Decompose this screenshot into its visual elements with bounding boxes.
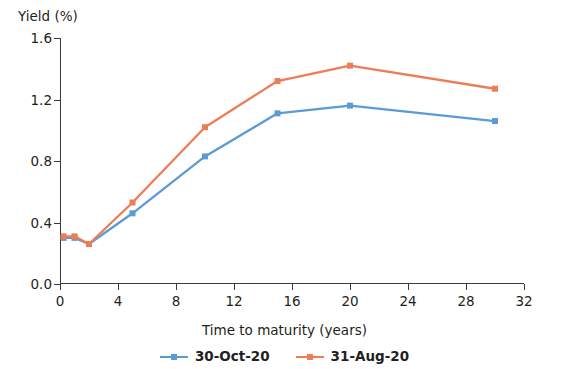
x-tick-mark: [466, 284, 467, 290]
x-tick-label: 28: [457, 293, 474, 309]
x-tick-label: 0: [56, 293, 65, 309]
y-tick-label: 0.4: [31, 215, 52, 231]
x-tick-label: 24: [399, 293, 416, 309]
x-tick-mark: [408, 284, 409, 290]
data-point-marker: [492, 118, 498, 124]
x-tick-mark: [118, 284, 119, 290]
x-tick-mark: [524, 284, 525, 290]
legend-swatch: [296, 351, 324, 362]
data-point-marker: [347, 103, 353, 109]
y-tick-label: 0.0: [31, 276, 52, 292]
series-line: [64, 106, 495, 244]
legend-swatch: [160, 351, 188, 362]
chart-legend: 30-Oct-2031-Aug-20: [0, 348, 569, 364]
x-tick-mark: [60, 284, 61, 290]
x-tick-label: 16: [283, 293, 300, 309]
y-tick-label: 0.8: [31, 153, 52, 169]
data-point-marker: [492, 86, 498, 92]
x-tick-label: 20: [341, 293, 358, 309]
x-tick-label: 32: [515, 293, 532, 309]
legend-marker: [171, 354, 177, 360]
data-point-marker: [130, 210, 136, 216]
x-tick-mark: [176, 284, 177, 290]
data-point-marker: [72, 233, 78, 239]
x-tick-mark: [292, 284, 293, 290]
legend-item-1[interactable]: 30-Oct-20: [160, 348, 270, 364]
y-tick-label: 1.2: [31, 92, 52, 108]
legend-label: 31-Aug-20: [331, 348, 410, 364]
series-2: [61, 63, 498, 247]
series-1: [61, 103, 498, 247]
series-layer: [60, 38, 524, 284]
legend-label: 30-Oct-20: [195, 348, 270, 364]
chart-container: Yield (%) 0.00.40.81.21.6 04812162024283…: [0, 0, 569, 369]
y-axis-title: Yield (%): [18, 8, 78, 24]
x-tick-label: 4: [114, 293, 123, 309]
data-point-marker: [202, 153, 208, 159]
legend-marker: [307, 354, 313, 360]
x-tick-mark: [350, 284, 351, 290]
x-tick-mark: [234, 284, 235, 290]
data-point-marker: [86, 241, 92, 247]
data-point-marker: [347, 63, 353, 69]
data-point-marker: [61, 233, 67, 239]
legend-item-2[interactable]: 31-Aug-20: [296, 348, 410, 364]
x-axis-title: Time to maturity (years): [0, 322, 569, 338]
plot-area: 0.00.40.81.21.6 048121620242832: [60, 38, 524, 284]
data-point-marker: [275, 110, 281, 116]
x-tick-label: 12: [225, 293, 242, 309]
data-point-marker: [202, 124, 208, 130]
data-point-marker: [275, 78, 281, 84]
x-tick-label: 8: [172, 293, 181, 309]
data-point-marker: [130, 200, 136, 206]
y-tick-label: 1.6: [31, 30, 52, 46]
